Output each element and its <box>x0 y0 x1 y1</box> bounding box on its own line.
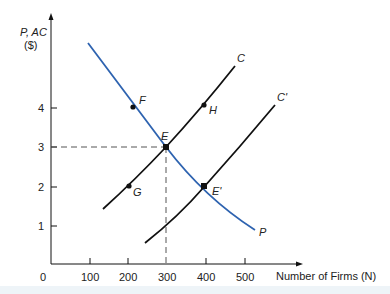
point-g <box>126 183 131 188</box>
y-ticks <box>51 108 57 226</box>
y-tick-label-3: 3 <box>38 141 44 153</box>
x-tick-label-300: 300 <box>158 271 176 283</box>
label-g: G <box>133 186 142 198</box>
label-h: H <box>209 104 217 116</box>
x-tick-label-400: 400 <box>197 271 215 283</box>
x-axis-arrow-icon <box>296 262 303 267</box>
y-tick-label-1: 1 <box>38 220 44 232</box>
y-axis-arrow-icon <box>49 13 54 20</box>
label-c: C <box>237 52 245 64</box>
point-e <box>163 144 169 150</box>
x-ticks <box>90 258 245 264</box>
y-tick-label-4: 4 <box>38 102 44 114</box>
curve-c-prime <box>145 105 275 243</box>
label-e-prime: E' <box>212 185 222 197</box>
x-tick-label-100: 100 <box>81 271 99 283</box>
bottom-band <box>0 286 390 294</box>
chart-canvas: P, AC ($) 4 3 2 1 0 100 200 300 400 500 … <box>0 0 390 294</box>
label-c-prime: C' <box>277 91 288 103</box>
point-e-prime <box>201 183 207 189</box>
x-axis-label: Number of Firms (N) <box>276 270 376 282</box>
point-h <box>201 102 206 107</box>
x-tick-label-200: 200 <box>119 271 137 283</box>
y-tick-label-2: 2 <box>38 181 44 193</box>
y-axis-label-line2: ($) <box>24 39 37 51</box>
label-f: F <box>139 94 147 106</box>
x-tick-label-0: 0 <box>40 271 46 283</box>
x-tick-label-500: 500 <box>236 271 254 283</box>
label-e: E <box>161 130 169 142</box>
y-axis-label-line1: P, AC <box>20 26 47 38</box>
label-p: P <box>259 226 267 238</box>
point-f <box>130 104 135 109</box>
